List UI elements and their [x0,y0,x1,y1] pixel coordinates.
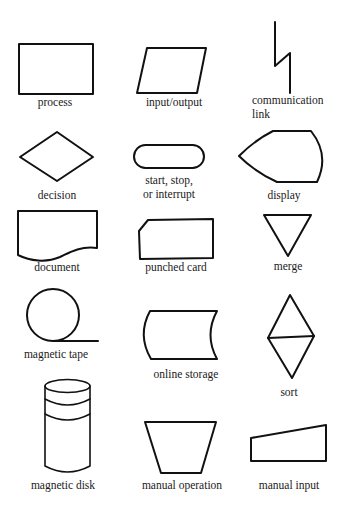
symbol-merge: merge [264,215,311,273]
merge-shape [264,215,311,256]
process-shape [19,44,93,94]
diagram-svg: process input/output communication link … [0,0,345,521]
process-label: process [38,96,73,109]
terminal-label-line2: or interrupt [143,188,196,201]
terminal-label-line1: start, stop, [145,174,193,187]
magnetic-disk-band-1 [45,399,90,405]
manual-operation-shape [145,422,216,473]
magnetic-disk-band-2 [45,414,90,420]
sort-divider [268,336,314,338]
communication-link-label-line2: link [252,108,270,120]
merge-label: merge [274,260,303,273]
decision-label: decision [38,189,77,201]
terminal-shape [134,145,204,168]
communication-link-shape [275,22,290,93]
symbol-document: document [18,211,97,273]
symbol-online-storage: online storage [144,311,219,381]
symbol-decision: decision [20,132,93,201]
sort-label: sort [280,386,298,398]
manual-input-label: manual input [259,479,320,492]
magnetic-disk-label: magnetic disk [31,479,95,492]
manual-input-shape [251,425,326,461]
symbol-communication-link: communication link [252,22,324,120]
communication-link-label-line1: communication [252,94,324,106]
document-label: document [34,261,80,273]
symbol-sort: sort [268,295,314,398]
flowchart-symbols-diagram: process input/output communication link … [0,0,345,521]
magnetic-tape-label: magnetic tape [24,348,88,361]
symbol-input-output: input/output [137,48,206,109]
symbol-display: display [239,131,322,202]
symbol-magnetic-disk: magnetic disk [31,380,95,493]
symbol-manual-operation: manual operation [142,422,222,492]
display-shape [239,131,322,182]
display-label: display [267,189,300,202]
document-shape [18,211,97,261]
symbol-process: process [19,44,93,109]
online-storage-label: online storage [154,368,219,381]
symbol-magnetic-tape: magnetic tape [24,289,98,361]
magnetic-disk-body [45,386,90,472]
symbol-terminal: start, stop, or interrupt [134,145,204,201]
decision-shape [20,132,93,181]
magnetic-disk-top [45,380,90,393]
magnetic-tape-reel [27,289,79,341]
punched-card-shape [139,219,213,259]
symbol-punched-card: punched card [139,219,213,274]
online-storage-shape [144,311,217,359]
punched-card-label: punched card [145,261,207,274]
symbol-manual-input: manual input [251,425,326,492]
manual-operation-label: manual operation [142,479,222,492]
input-output-label: input/output [146,96,203,109]
input-output-shape [137,48,206,93]
